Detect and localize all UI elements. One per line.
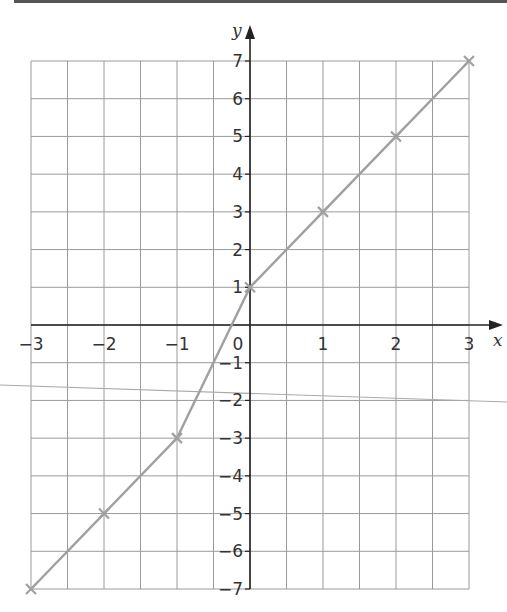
y-tick-label: 7 — [232, 51, 243, 71]
x-tick-label: −2 — [91, 334, 116, 354]
x-tick-label: 3 — [464, 334, 475, 354]
y-axis-arrow-icon — [245, 25, 255, 39]
x-tick-label: 1 — [318, 334, 329, 354]
x-axis-label: x — [493, 330, 503, 350]
x-tick-label: −1 — [164, 334, 189, 354]
y-tick-label: −1 — [218, 353, 243, 373]
y-axis-label: y — [231, 20, 242, 40]
x-tick-label: 2 — [391, 334, 402, 354]
y-tick-label: 4 — [232, 164, 243, 184]
y-tick-label: 5 — [232, 126, 243, 146]
y-tick-label: −7 — [218, 579, 243, 599]
y-tick-label: 2 — [232, 240, 243, 260]
y-tick-label: 3 — [232, 202, 243, 222]
x-tick-label: −3 — [18, 334, 43, 354]
line-chart: xy−3−2−112307654321−1−2−3−4−5−6−7 — [0, 0, 507, 612]
y-tick-label: 1 — [232, 277, 243, 297]
y-tick-label: −4 — [218, 466, 243, 486]
stray-line — [0, 385, 507, 402]
x-axis-arrow-icon — [489, 320, 503, 330]
y-tick-label: −6 — [218, 541, 243, 561]
origin-label: 0 — [233, 334, 244, 354]
y-tick-label: −2 — [218, 390, 243, 410]
y-tick-label: 6 — [232, 89, 243, 109]
y-tick-label: −3 — [218, 428, 243, 448]
y-tick-label: −5 — [218, 504, 243, 524]
